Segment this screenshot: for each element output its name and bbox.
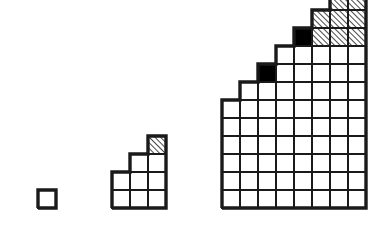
unit-cell-white — [258, 190, 276, 208]
unit-cell-white — [148, 172, 166, 190]
unit-cell-white — [276, 118, 294, 136]
unit-cell-white — [258, 172, 276, 190]
figure-canvas — [0, 0, 378, 236]
unit-cell-hatched — [348, 0, 366, 10]
unit-cell-white — [258, 100, 276, 118]
unit-cell-white — [276, 46, 294, 64]
unit-cell-white — [294, 190, 312, 208]
unit-cell-white — [240, 172, 258, 190]
unit-cell-white — [258, 118, 276, 136]
unit-cell-white — [130, 172, 148, 190]
unit-cell-white — [294, 154, 312, 172]
unit-cell-white — [222, 172, 240, 190]
unit-cell-white — [330, 82, 348, 100]
unit-cell-white — [222, 118, 240, 136]
unit-cell-white — [130, 154, 148, 172]
unit-cell-white — [312, 190, 330, 208]
unit-cell-white — [348, 136, 366, 154]
unit-cell-white — [112, 190, 130, 208]
unit-cell-white — [312, 136, 330, 154]
unit-cell-white — [330, 154, 348, 172]
unit-cell-white — [222, 190, 240, 208]
unit-cell-black — [294, 28, 312, 46]
unit-cell-white — [240, 82, 258, 100]
unit-cell-white — [330, 172, 348, 190]
unit-cell-white — [330, 46, 348, 64]
unit-cell-white — [258, 82, 276, 100]
unit-cell-white — [240, 190, 258, 208]
unit-cell-hatched — [312, 28, 330, 46]
unit-cell-white — [294, 100, 312, 118]
unit-cell-white — [38, 190, 56, 208]
unit-cell-white — [294, 64, 312, 82]
unit-cell-white — [330, 118, 348, 136]
unit-cell-white — [276, 82, 294, 100]
unit-cell-white — [240, 154, 258, 172]
unit-cell-white — [348, 154, 366, 172]
unit-cell-white — [330, 190, 348, 208]
unit-cell-white — [348, 172, 366, 190]
unit-cell-white — [112, 172, 130, 190]
unit-cell-white — [276, 190, 294, 208]
unit-cell-hatched — [330, 0, 348, 10]
unit-cell-white — [148, 190, 166, 208]
unit-cell-white — [312, 64, 330, 82]
unit-cell-hatched — [330, 28, 348, 46]
unit-cell-white — [312, 172, 330, 190]
unit-cell-white — [348, 82, 366, 100]
unit-cell-white — [222, 154, 240, 172]
unit-cell-white — [312, 118, 330, 136]
unit-cell-white — [294, 118, 312, 136]
unit-cell-white — [330, 100, 348, 118]
unit-cell-hatched — [312, 10, 330, 28]
unit-cell-white — [312, 46, 330, 64]
unit-cell-white — [222, 100, 240, 118]
unit-cell-white — [348, 100, 366, 118]
unit-cell-white — [312, 100, 330, 118]
unit-cell-white — [294, 82, 312, 100]
unit-cell-white — [348, 46, 366, 64]
unit-cell-white — [294, 172, 312, 190]
unit-cell-white — [348, 190, 366, 208]
unit-cell-white — [330, 64, 348, 82]
unit-cell-white — [276, 172, 294, 190]
unit-cell-white — [330, 136, 348, 154]
unit-cell-black — [258, 64, 276, 82]
unit-cell-white — [312, 154, 330, 172]
unit-cell-white — [312, 82, 330, 100]
unit-cell-hatched — [348, 10, 366, 28]
unit-cell-white — [240, 118, 258, 136]
unit-cell-white — [276, 64, 294, 82]
unit-cell-white — [348, 64, 366, 82]
unit-cell-hatched — [330, 10, 348, 28]
unit-cell-white — [222, 136, 240, 154]
unit-cell-white — [276, 100, 294, 118]
unit-cell-white — [240, 136, 258, 154]
figure-1 — [38, 190, 56, 208]
unit-cell-white — [258, 154, 276, 172]
staircase-diagram-svg — [0, 0, 378, 236]
unit-cell-white — [276, 154, 294, 172]
unit-cell-white — [258, 136, 276, 154]
unit-cell-hatched — [348, 28, 366, 46]
unit-cell-white — [240, 100, 258, 118]
unit-cell-white — [294, 46, 312, 64]
unit-cell-white — [294, 136, 312, 154]
unit-cell-white — [348, 118, 366, 136]
unit-cell-white — [148, 154, 166, 172]
unit-cell-white — [276, 136, 294, 154]
unit-cell-hatched — [148, 136, 166, 154]
unit-cell-white — [130, 190, 148, 208]
